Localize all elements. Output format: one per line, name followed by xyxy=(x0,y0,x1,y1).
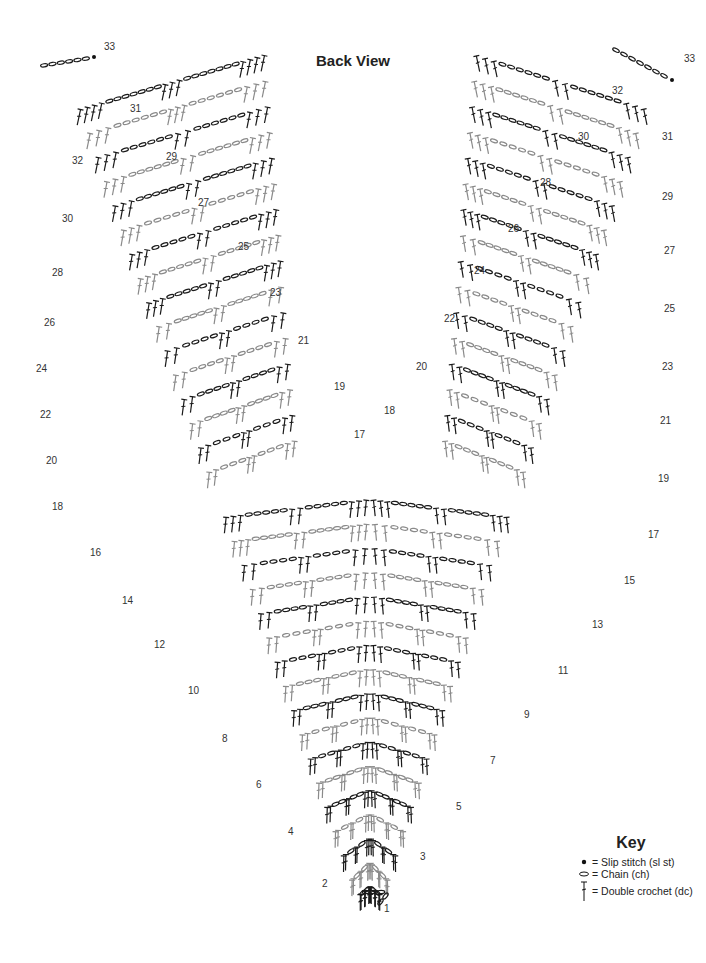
row-number-label: 30 xyxy=(578,131,590,142)
row-number-label: 8 xyxy=(222,733,228,744)
row-number-label: 25 xyxy=(664,303,676,314)
row-number-label: 16 xyxy=(90,547,102,558)
row-number-label: 7 xyxy=(490,755,496,766)
row-number-label: 20 xyxy=(46,455,58,466)
row-number-label: 23 xyxy=(270,287,282,298)
row-number-label: 33 xyxy=(104,41,116,52)
row-number-label: 17 xyxy=(648,529,660,540)
legend-item-double-crochet: = Double crochet (dc) xyxy=(576,880,706,902)
row-number-label: 13 xyxy=(592,619,604,630)
row-number-label: 3 xyxy=(420,851,426,862)
crochet-diagram: 2468101214161820222426283032171921232527… xyxy=(0,0,706,963)
row-number-label: 32 xyxy=(72,155,84,166)
row-number-label: 26 xyxy=(508,223,520,234)
row-number-label: 19 xyxy=(334,381,346,392)
row-number-label: 12 xyxy=(154,639,166,650)
legend-label: = Slip stitch (sl st) xyxy=(592,856,675,868)
row-number-label: 21 xyxy=(660,415,672,426)
row-number-label: 31 xyxy=(662,131,674,142)
legend-item-chain: = Chain (ch) xyxy=(576,868,706,880)
row-number-label: 25 xyxy=(238,241,250,252)
row-number-label: 18 xyxy=(384,405,396,416)
row-number-label: 29 xyxy=(166,151,178,162)
legend-title: Key xyxy=(586,834,676,852)
row-number-label: 11 xyxy=(558,665,569,676)
row-number-label: 21 xyxy=(298,335,310,346)
row-number-label: 2 xyxy=(322,878,328,889)
row-number-label: 22 xyxy=(444,313,456,324)
row-number-label: 22 xyxy=(40,409,52,420)
row-number-label: 26 xyxy=(44,317,56,328)
row-number-label: 20 xyxy=(416,361,428,372)
legend-label: = Chain (ch) xyxy=(592,868,649,880)
row-number-label: 29 xyxy=(662,191,674,202)
row-number-label: 14 xyxy=(122,595,134,606)
row-number-label: 10 xyxy=(188,685,200,696)
legend-item-slip-stitch: = Slip stitch (sl st) xyxy=(576,856,706,868)
row-number-label: 27 xyxy=(664,245,676,256)
row-number-label: 5 xyxy=(456,801,462,812)
legend: Key = Slip stitch (sl st) = Chain (ch) =… xyxy=(576,834,706,902)
row-number-label: 31 xyxy=(130,103,142,114)
row-number-label: 4 xyxy=(288,826,294,837)
row-number-label: 24 xyxy=(474,265,486,276)
row-number-label: 1 xyxy=(384,903,390,914)
row-number-label: 19 xyxy=(658,473,670,484)
row-number-label: 6 xyxy=(256,779,262,790)
row-number-label: 15 xyxy=(624,575,636,586)
row-number-label: 18 xyxy=(52,501,64,512)
row-number-label: 30 xyxy=(62,213,74,224)
row-number-label: 32 xyxy=(612,85,624,96)
row-number-label: 28 xyxy=(52,267,64,278)
row-number-label: 33 xyxy=(684,53,696,64)
legend-label: = Double crochet (dc) xyxy=(592,885,693,897)
row-number-label: 17 xyxy=(354,429,366,440)
row-number-label: 27 xyxy=(198,197,210,208)
row-number-label: 23 xyxy=(662,361,674,372)
double-crochet-icon xyxy=(576,880,592,902)
row-number-label: 28 xyxy=(540,177,552,188)
row-number-label: 24 xyxy=(36,363,48,374)
slip-stitch-icon xyxy=(576,858,592,866)
row-number-label: 9 xyxy=(524,709,530,720)
chain-icon xyxy=(576,870,592,878)
